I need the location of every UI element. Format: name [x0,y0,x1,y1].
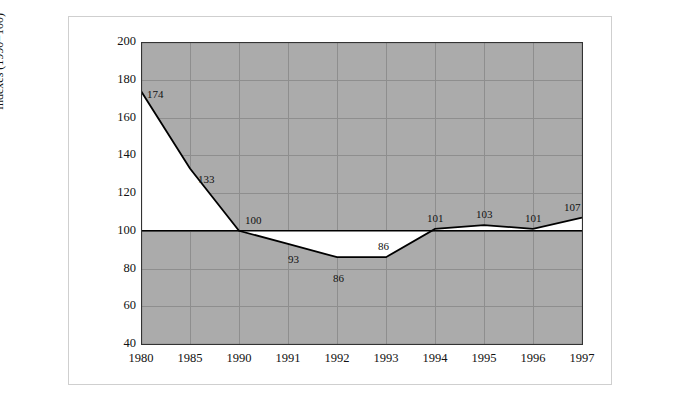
data-point-labels: 174133100938686101103101107 [0,0,683,410]
data-point-label: 107 [564,202,581,213]
data-point-label: 101 [427,213,444,224]
data-point-label: 100 [245,215,262,226]
index-line-chart: Indexes (1990=100) 406080100120140160180… [0,0,683,410]
data-point-label: 133 [198,174,215,185]
data-point-label: 103 [476,209,493,220]
data-point-label: 86 [378,241,389,252]
data-point-label: 174 [147,89,164,100]
chart-screenshot: Indexes (1990=100) 406080100120140160180… [0,0,683,410]
data-point-label: 93 [288,254,299,265]
data-point-label: 101 [525,213,542,224]
data-point-label: 86 [333,273,344,284]
